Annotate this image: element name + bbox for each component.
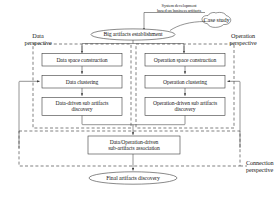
root-ellipse-shape xyxy=(91,29,175,40)
data-driven-sub-artifacts-box-shape xyxy=(42,98,122,116)
data-clustering-box-shape xyxy=(42,76,122,89)
final-ellipse-shape xyxy=(89,172,177,184)
diagram-vector-layer xyxy=(0,0,280,197)
operation-driven-sub-artifacts-box-shape xyxy=(145,98,225,116)
data-feedback-connector xyxy=(19,81,40,148)
case-study-cloud xyxy=(202,12,231,27)
operation-clustering-box-shape xyxy=(145,76,225,89)
association-merge-connector xyxy=(82,116,185,135)
diagram-canvas: System development based on business art… xyxy=(0,0,280,197)
association-box-shape xyxy=(88,136,180,154)
system-development-note-connector xyxy=(144,13,205,31)
root-branch-connector xyxy=(82,40,184,53)
data-space-construction-box-shape xyxy=(42,54,122,67)
operation-space-construction-box-shape xyxy=(145,54,225,67)
